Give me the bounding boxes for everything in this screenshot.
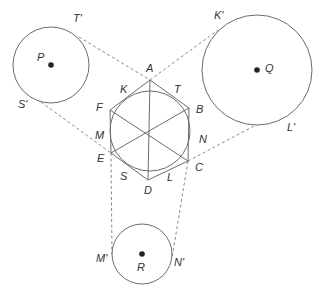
outer-circles — [13, 15, 312, 284]
dashed-line-E-Mp — [111, 153, 112, 254]
center-dot-r — [139, 251, 145, 257]
geometry-diagram: ABCDEFKTNLSMPQRT'K'S'L'M'N' — [0, 0, 320, 300]
label-point-t: T — [174, 83, 182, 95]
center-dot-p — [48, 62, 54, 68]
label-vertex-e: E — [97, 152, 105, 164]
label-point-k-prime: K' — [214, 9, 224, 21]
dashed-line-A-Kp — [150, 30, 218, 80]
label-point-l: L — [167, 171, 173, 183]
label-point-k: K — [120, 83, 128, 95]
hexagon-with-incircle — [110, 80, 190, 180]
label-center-q: Q — [265, 62, 274, 74]
label-vertex-d: D — [144, 184, 152, 196]
diagonal-AD — [148, 80, 150, 180]
label-point-m-prime: M' — [96, 252, 108, 264]
label-point-s: S — [120, 170, 128, 182]
diagonal-BE — [111, 108, 189, 153]
label-vertex-f: F — [96, 101, 104, 113]
label-point-t-prime: T' — [73, 12, 83, 24]
dashed-line-Tp-A — [79, 37, 150, 80]
label-vertex-a: A — [145, 62, 153, 74]
label-vertex-b: B — [196, 103, 203, 115]
center-dot-q — [254, 67, 260, 73]
label-center-r: R — [137, 261, 145, 273]
dashed-line-C-Np — [172, 161, 188, 258]
label-point-s-prime: S' — [18, 98, 28, 110]
label-point-m: M — [95, 129, 105, 141]
label-point-l-prime: L' — [287, 121, 296, 133]
label-point-n: N — [199, 133, 207, 145]
label-point-n-prime: N' — [174, 256, 185, 268]
label-vertex-c: C — [195, 161, 203, 173]
label-center-p: P — [37, 51, 45, 63]
